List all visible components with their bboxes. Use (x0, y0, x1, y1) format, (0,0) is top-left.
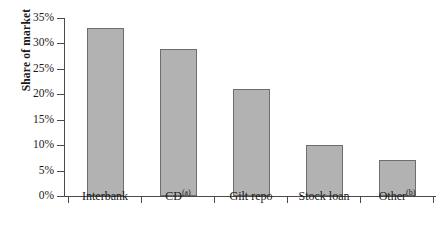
y-tick-mark (57, 94, 64, 95)
y-tick-mark (57, 69, 64, 70)
y-tick-mark (57, 18, 64, 19)
y-tick-mark (57, 145, 64, 146)
x-category-footnote: (a) (182, 188, 191, 197)
x-category-text: CD (165, 189, 182, 203)
y-axis-line (64, 18, 65, 196)
plot-area: 0% 5% 10% 15% 20% 25% 30% 35% (64, 18, 436, 196)
y-tick-label: 5% (14, 165, 54, 177)
y-tick-label: 20% (14, 89, 54, 101)
x-category-footnote: (b) (406, 188, 415, 197)
y-tick-label: 15% (14, 114, 54, 126)
y-tick-mark (57, 43, 64, 44)
bar-gilt-repo (233, 89, 270, 196)
y-tick-label: 25% (14, 63, 54, 75)
y-tick-mark (57, 171, 64, 172)
x-category-text: Interbank (82, 189, 128, 203)
y-tick-label: 0% (14, 190, 54, 202)
y-tick-label: 30% (14, 38, 54, 50)
y-tick-mark (57, 120, 64, 121)
bar-cd (160, 49, 197, 196)
y-tick-label: 10% (14, 139, 54, 151)
x-category-text: Other (379, 189, 406, 203)
y-tick-label: 35% (14, 12, 54, 24)
x-category-label-other: Other(b) (342, 190, 442, 202)
bar-interbank (87, 28, 124, 196)
bar-chart: Share of market 0% 5% 10% 15% 20% 25% 30… (0, 0, 442, 237)
x-category-text: Gilt repo (230, 189, 273, 203)
